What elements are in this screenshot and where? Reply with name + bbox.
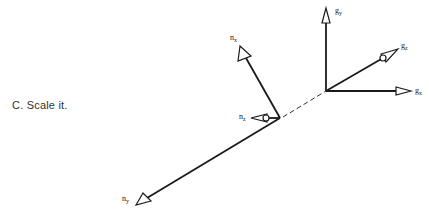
n-x-arrowhead: [238, 46, 251, 61]
n-frame: [136, 46, 280, 205]
n-x-axis: [246, 58, 280, 118]
g-x-arrowhead: [396, 87, 411, 95]
dashed-connector: [283, 91, 326, 117]
label-g-y: gy: [335, 6, 342, 16]
label-n-x: nx: [230, 33, 237, 43]
label-n-z: nz: [239, 112, 246, 122]
n-y-axis: [147, 118, 280, 198]
coordinate-frames-diagram: nx ny nz gy gx gz: [0, 0, 429, 215]
n-y-arrowhead: [136, 193, 151, 205]
g-y-arrowhead: [322, 8, 330, 23]
g-z-axis: [326, 58, 383, 91]
label-n-y: ny: [122, 194, 129, 204]
g-frame: [322, 8, 411, 95]
label-g-x: gx: [415, 86, 422, 96]
label-g-z: gz: [401, 41, 408, 51]
g-z-tail-circle: [380, 55, 386, 61]
n-z-tail-circle: [263, 115, 269, 121]
